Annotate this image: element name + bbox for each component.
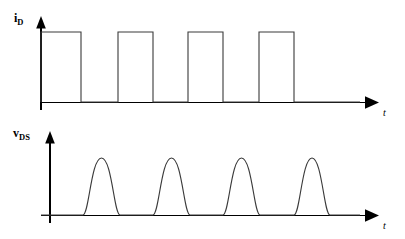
- bottom-y-axis-arrowhead: [45, 131, 55, 144]
- plot-bottom-vds: [41, 131, 379, 223]
- bottom-x-axis-arrowhead: [365, 209, 379, 222]
- waveform-figure: iD t vDS t: [0, 0, 405, 239]
- top-x-axis-arrowhead: [365, 96, 379, 109]
- top-y-axis-label: iD: [14, 11, 23, 27]
- top-x-axis-label: t: [383, 107, 386, 118]
- bottom-y-axis-label: vDS: [13, 126, 30, 142]
- vds-half-sine-waveform: [41, 158, 360, 215]
- id-square-pulse-waveform: [41, 32, 360, 102]
- waveform-svg: iD t vDS t: [0, 0, 405, 239]
- plot-top-id: [36, 16, 379, 110]
- top-y-axis-arrowhead: [36, 16, 46, 29]
- bottom-x-axis-label: t: [383, 220, 386, 231]
